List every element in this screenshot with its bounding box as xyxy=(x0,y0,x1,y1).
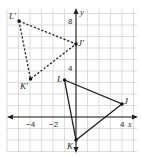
vertex-label-l-prime: L′ xyxy=(8,11,17,21)
x-tick-label: 4 xyxy=(120,120,125,129)
x-axis-label: x xyxy=(127,119,132,129)
triangle-jkl-preimage xyxy=(65,80,123,140)
y-axis-down-arrow-icon xyxy=(74,147,79,153)
y-axis-label: y xyxy=(79,7,84,17)
y-tick-label: 4 xyxy=(68,64,73,73)
coordinate-plane-figure: −4 −2 4 8 4 x y L′ J′ K′ L J K xyxy=(0,0,141,156)
x-axis-left-arrow-icon xyxy=(7,115,13,120)
vertex-label-j: J xyxy=(124,96,129,106)
x-axis-right-arrow-icon xyxy=(132,115,138,120)
x-tick-label: −4 xyxy=(26,120,36,129)
vertex-label-l: L xyxy=(56,74,62,84)
coordinate-plane: −4 −2 4 8 4 x y L′ J′ K′ L J K xyxy=(0,0,141,156)
vertex-k xyxy=(74,138,77,141)
vertex-l xyxy=(63,78,66,81)
y-axis-up-arrow-icon xyxy=(74,8,79,14)
vertex-l-prime xyxy=(17,19,20,22)
x-tick-label: −2 xyxy=(49,120,59,129)
vertex-label-k-prime: K′ xyxy=(19,81,29,91)
vertex-label-k: K xyxy=(66,141,74,151)
vertex-k-prime xyxy=(29,77,32,80)
y-tick-label: 8 xyxy=(68,17,73,26)
vertex-label-j-prime: J′ xyxy=(78,38,85,48)
